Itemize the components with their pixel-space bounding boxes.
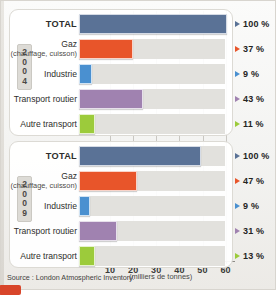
bar-row: Gaz(chauffage, cuisson) xyxy=(1,36,225,61)
percent-value-text: 31 % xyxy=(243,226,264,236)
triangle-marker-icon xyxy=(235,96,240,102)
row-background-stripe xyxy=(79,64,225,84)
bar-row-label-main: Industrie xyxy=(44,69,77,79)
bar-row-label: Transport routier xyxy=(1,218,79,243)
bar-row: TOTAL xyxy=(1,143,225,168)
bar-row-label: Industrie xyxy=(1,61,79,86)
bar-row-label-main: Transport routier xyxy=(14,226,77,236)
bar-row-label-main: Gaz xyxy=(61,171,77,181)
axis-unit-label: (milliers de tonnes) xyxy=(129,272,192,281)
bar-total[interactable] xyxy=(79,14,227,34)
bar-row-label-main: Industrie xyxy=(44,201,77,211)
percent-value-cell: 100 % xyxy=(235,11,277,36)
row-background-stripe xyxy=(79,246,225,266)
row-background-stripe xyxy=(79,196,225,216)
percent-value-text: 100 % xyxy=(243,19,270,29)
bar-row: Autre transport xyxy=(1,243,225,268)
bar-gaz[interactable] xyxy=(79,39,133,59)
bar-row-label: Industrie xyxy=(1,193,79,218)
bar-row: Industrie xyxy=(1,61,225,86)
triangle-marker-icon xyxy=(235,21,240,27)
bar-total[interactable] xyxy=(79,146,201,166)
bar-row-label: Autre transport xyxy=(1,111,79,136)
percent-value-text: 9 % xyxy=(243,69,259,79)
bar-row-label-main: Gaz xyxy=(61,39,77,49)
triangle-marker-icon xyxy=(235,203,240,209)
bar-industrie[interactable] xyxy=(79,196,90,216)
triangle-marker-icon xyxy=(235,71,240,77)
bar-row-label: Gaz(chauffage, cuisson) xyxy=(1,168,79,193)
bar-row-label-main: Transport routier xyxy=(14,94,77,104)
triangle-marker-icon xyxy=(235,121,240,127)
bar-row-label: Autre transport xyxy=(1,243,79,268)
percent-value-text: 11 % xyxy=(243,119,264,129)
row-background-stripe xyxy=(79,114,225,134)
percent-value-text: 100 % xyxy=(243,151,270,161)
percent-value-cell: 31 % xyxy=(235,218,277,243)
bar-autre-transport[interactable] xyxy=(79,246,95,266)
percent-value-text: 43 % xyxy=(243,94,264,104)
bar-row-label: TOTAL xyxy=(1,11,79,36)
triangle-marker-icon xyxy=(235,178,240,184)
bar-row-label-sub: (chauffage, cuisson) xyxy=(11,49,77,59)
source-note: Source : London Atmospheric Inventory. xyxy=(7,273,134,282)
bar-row: TOTAL xyxy=(1,11,225,36)
bar-row-label-main: Autre transport xyxy=(20,119,77,129)
bar-row-label: Transport routier xyxy=(1,86,79,111)
bar-autre-transport[interactable] xyxy=(79,114,95,134)
bar-row: Transport routier xyxy=(1,86,225,111)
bar-gaz[interactable] xyxy=(79,171,137,191)
bar-transport-routier[interactable] xyxy=(79,89,143,109)
bar-row: Gaz(chauffage, cuisson) xyxy=(1,168,225,193)
bar-row-label: Gaz(chauffage, cuisson) xyxy=(1,36,79,61)
percent-value-cell: 9 % xyxy=(235,61,277,86)
percent-value-text: 47 % xyxy=(243,176,264,186)
bar-row: Industrie xyxy=(1,193,225,218)
percent-value-cell: 13 % xyxy=(235,243,277,268)
bar-row-label-main: TOTAL xyxy=(46,151,77,161)
percent-value-cell: 11 % xyxy=(235,111,277,136)
bar-row-label-sub: (chauffage, cuisson) xyxy=(11,181,77,191)
bar-row: Transport routier xyxy=(1,218,225,243)
triangle-marker-icon xyxy=(235,46,240,52)
triangle-marker-icon xyxy=(235,228,240,234)
bar-row: Autre transport xyxy=(1,111,225,136)
bar-transport-routier[interactable] xyxy=(79,221,117,241)
percent-value-cell: 47 % xyxy=(235,168,277,193)
percent-value-cell: 37 % xyxy=(235,36,277,61)
bar-row-label: TOTAL xyxy=(1,143,79,168)
percent-value-cell: 9 % xyxy=(235,193,277,218)
red-accent-tab xyxy=(0,285,21,295)
bar-row-label-main: Autre transport xyxy=(20,251,77,261)
percent-value-text: 9 % xyxy=(243,201,259,211)
bar-row-label-main: TOTAL xyxy=(46,19,77,29)
percent-value-text: 13 % xyxy=(243,251,264,261)
percent-value-cell: 43 % xyxy=(235,86,277,111)
bar-industrie[interactable] xyxy=(79,64,92,84)
percent-value-cell: 100 % xyxy=(235,143,277,168)
percent-value-text: 37 % xyxy=(243,44,264,54)
triangle-marker-icon xyxy=(235,253,240,259)
triangle-marker-icon xyxy=(235,153,240,159)
